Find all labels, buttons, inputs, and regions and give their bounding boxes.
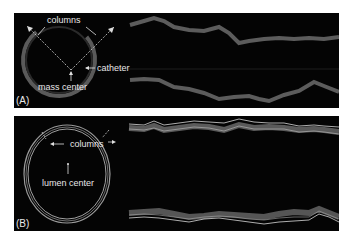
panel-b-label: (B) [16, 218, 29, 229]
panel-b: columns lumen center (B) [14, 116, 339, 231]
column-line-left [27, 26, 71, 70]
lumen-center-annotation: lumen center [42, 178, 94, 188]
panel-b-graphics [14, 116, 339, 231]
lumen-center-dot [67, 163, 69, 165]
panel-a-label: (A) [16, 95, 29, 106]
panel-a: columns catheter mass center (A) [14, 13, 339, 108]
upper-band [129, 125, 339, 132]
arrowhead-left-small-icon [85, 66, 89, 70]
arrowhead-right-icon [112, 140, 116, 144]
columns-annotation: columns [47, 15, 81, 25]
columns-annotation: columns [70, 139, 104, 149]
arrowhead-up-icon [69, 71, 73, 75]
catheter-annotation: catheter [97, 63, 130, 73]
mass-center-annotation: mass center [38, 82, 87, 92]
upper-boundary-trace [130, 18, 339, 43]
column-line-right [102, 130, 109, 138]
arrowhead-left-icon [50, 142, 54, 146]
panel-a-graphics [14, 13, 339, 108]
columns-arrow-right [86, 27, 96, 35]
lower-band [129, 209, 339, 217]
lower-boundary-trace [130, 79, 339, 101]
